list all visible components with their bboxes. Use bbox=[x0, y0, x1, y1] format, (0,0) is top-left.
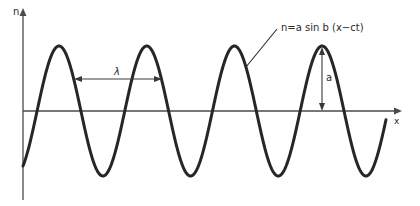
equation-label: n=a sin b (x−ct) bbox=[281, 22, 364, 33]
equation-leader-line bbox=[246, 29, 277, 67]
wavelength-annotation: λ bbox=[74, 66, 162, 82]
wave-diagram: n x λ a n=a sin b (x−ct) bbox=[0, 0, 420, 206]
x-axis-arrow-icon bbox=[394, 108, 402, 115]
wavelength-label: λ bbox=[113, 66, 120, 77]
equation-callout: n=a sin b (x−ct) bbox=[246, 22, 364, 67]
amplitude-label: a bbox=[326, 72, 332, 83]
y-axis-label: n bbox=[13, 6, 19, 17]
y-axis: n bbox=[13, 6, 27, 200]
x-axis-label: x bbox=[394, 116, 400, 126]
y-axis-arrow-icon bbox=[20, 8, 27, 16]
amplitude-arrow-bottom-icon bbox=[319, 103, 325, 111]
